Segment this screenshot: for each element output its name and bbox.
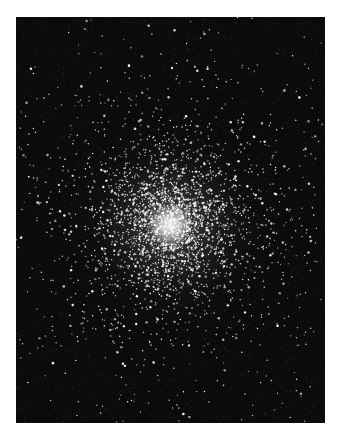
star-cluster-photo — [16, 17, 325, 423]
starfield-canvas — [16, 17, 325, 423]
